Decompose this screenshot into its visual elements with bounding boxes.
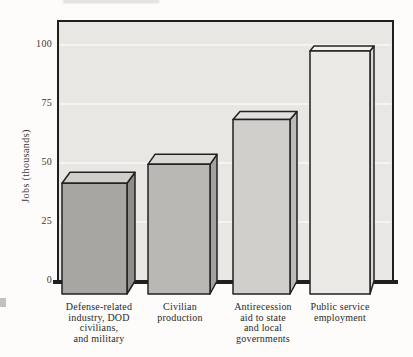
scan-artifact-left: [0, 298, 6, 307]
y-tick-label-50: 50: [14, 156, 52, 168]
plot-area-wall: [57, 20, 394, 282]
gridline-100: [60, 44, 391, 46]
gridline-50: [60, 162, 391, 164]
gridline-75: [60, 103, 391, 105]
category-label-public-service: Public service employment: [291, 302, 389, 323]
y-tick-label-0: 0: [14, 274, 52, 286]
y-tick-label-75: 75: [14, 97, 52, 109]
category-label-civilian: Civilian production: [139, 302, 221, 323]
y-tick-label-25: 25: [14, 215, 52, 227]
x-axis-baseline: [53, 280, 398, 284]
category-label-defense: Defense-related industry, DOD civilians,…: [50, 302, 148, 344]
y-tick-label-100: 100: [14, 38, 52, 50]
gridline-25: [60, 221, 391, 223]
bar-chart-figure: Jobs (thousands) 0255075100 Defense-rela…: [0, 0, 413, 357]
scan-artifact-top: [63, 0, 159, 3]
